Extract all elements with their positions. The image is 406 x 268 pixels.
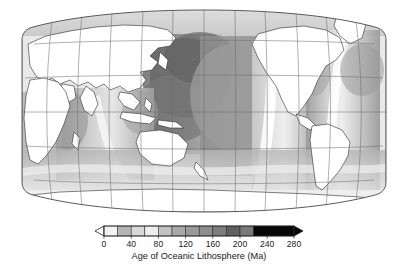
colorbar-tick-label-80: 80 bbox=[154, 239, 164, 249]
colorbar-band-140-160 bbox=[199, 226, 213, 236]
colorbar-band-20-40 bbox=[118, 226, 132, 236]
colorbar-tick-label-280: 280 bbox=[287, 239, 302, 249]
colorbar-tick-label-200: 200 bbox=[233, 239, 248, 249]
colorbar-band-120-140 bbox=[186, 226, 200, 236]
colorbar-band-100-120 bbox=[172, 226, 186, 236]
colorbar-band-60-80 bbox=[145, 226, 159, 236]
colorbar-svg[interactable]: 0 40 80 120 160 200 240 280 Age of Ocean… bbox=[0, 216, 406, 268]
colorbar-tick-label-0: 0 bbox=[102, 239, 107, 249]
colorbar-tick-label-240: 240 bbox=[260, 239, 275, 249]
colorbar-band-0-20 bbox=[104, 226, 118, 236]
colorbar-tick-label-160: 160 bbox=[206, 239, 221, 249]
colorbar-band-180-200 bbox=[226, 226, 240, 236]
figure-root: 0 40 80 120 160 200 240 280 Age of Ocean… bbox=[0, 0, 406, 268]
colorbar-band-80-100 bbox=[158, 226, 172, 236]
colorbar-tick-label-40: 40 bbox=[126, 239, 136, 249]
colorbar-caption: Age of Oceanic Lithosphere (Ma) bbox=[132, 251, 267, 261]
colorbar-band-200-220 bbox=[240, 226, 254, 236]
colorbar-tick-label-120: 120 bbox=[178, 239, 193, 249]
world-map-svg[interactable] bbox=[0, 0, 406, 218]
colorbar-cap-high bbox=[294, 226, 303, 236]
colorbar-cap-low bbox=[95, 226, 104, 236]
colorbar-band-220-280 bbox=[254, 226, 294, 236]
map-panel[interactable] bbox=[0, 0, 406, 218]
colorbar-panel[interactable]: 0 40 80 120 160 200 240 280 Age of Ocean… bbox=[0, 216, 406, 268]
colorbar-bands bbox=[104, 226, 294, 236]
colorbar-band-160-180 bbox=[213, 226, 227, 236]
colorbar-band-40-60 bbox=[131, 226, 145, 236]
